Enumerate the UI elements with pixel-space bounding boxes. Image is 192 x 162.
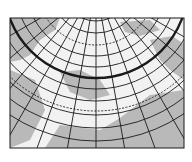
map-projection [0,0,192,162]
